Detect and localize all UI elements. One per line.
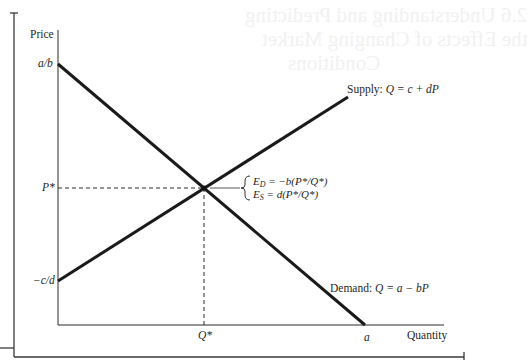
equilibrium-guides [58, 188, 204, 325]
demand-equation: Q = a − bP [375, 282, 429, 294]
demand-label-text: Demand: [330, 282, 375, 294]
ed-formula: = −b(P*/Q*) [266, 175, 328, 187]
page-frame [0, 13, 464, 360]
y-tick-a-over-b: a/b [38, 58, 53, 70]
y-tick-p-star: P* [42, 182, 55, 194]
demand-label: Demand: Q = a − bP [330, 283, 429, 295]
es-symbol: E [253, 188, 260, 200]
supply-elasticity: ES = d(P*/Q*) [253, 188, 318, 204]
supply-equation: Q = c + dP [386, 83, 439, 95]
x-tick-q-star: Q* [198, 330, 212, 342]
equilibrium-point [202, 186, 207, 191]
es-formula: = d(P*/Q*) [264, 188, 318, 200]
supply-label-text: Supply: [347, 83, 386, 95]
demand-curve [58, 64, 365, 325]
elasticity-brace [241, 176, 250, 200]
supply-label: Supply: Q = c + dP [347, 84, 439, 96]
y-axis-label: Price [30, 29, 54, 41]
y-tick-neg-c-over-d: −c/d [33, 275, 55, 287]
axes [58, 30, 444, 325]
x-tick-a: a [364, 332, 370, 344]
ed-symbol: E [253, 175, 260, 187]
x-axis-label: Quantity [407, 330, 447, 342]
